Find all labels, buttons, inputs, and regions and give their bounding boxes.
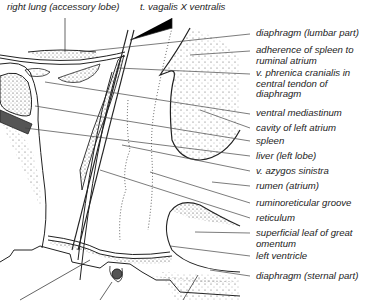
- label-diaphragm-lumbar: diaphragm (lumbar part): [256, 28, 359, 39]
- label-ruminoreticular-groove: ruminoreticular groove: [256, 198, 351, 209]
- label-liver: liver (left lobe): [256, 151, 316, 162]
- label-great-omentum: superficial leaf of great omentum: [256, 228, 366, 249]
- label-diaphragm-sternal: diaphragm (sternal part): [256, 271, 358, 282]
- label-rumen: rumen (atrium): [256, 181, 319, 192]
- label-cavity-left-atrium: cavity of left atrium: [256, 123, 336, 134]
- label-ventral-mediastinum: ventral mediastinum: [256, 108, 342, 119]
- label-right-lung: right lung (accessory lobe): [7, 2, 120, 13]
- label-t-vagalis: t. vagalis X ventralis: [140, 2, 225, 13]
- label-left-ventricle: left ventricle: [256, 251, 307, 262]
- label-reticulum: reticulum: [256, 213, 295, 224]
- label-v-phrenica: v. phrenica cranialis in central tendon …: [256, 68, 366, 100]
- anatomical-diagram: right lung (accessory lobe) t. vagalis X…: [0, 0, 366, 301]
- label-adherence-spleen: adherence of spleen to ruminal atrium: [256, 45, 366, 66]
- label-v-azygos: v. azygos sinistra: [256, 166, 329, 177]
- label-spleen: spleen: [256, 136, 284, 147]
